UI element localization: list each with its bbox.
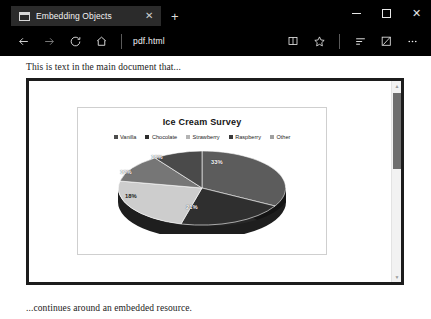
legend-label: Other — [276, 134, 290, 140]
scrollbar-thumb[interactable] — [393, 93, 401, 169]
slice-label-vanilla: 33% — [211, 159, 223, 165]
forward-button[interactable] — [36, 28, 62, 54]
document-text-after: ...continues around an embedded resource… — [26, 303, 192, 313]
arrow-left-icon — [17, 35, 30, 48]
tab-bar: Embedding Objects ✕ + ✕ — [0, 0, 431, 26]
pie-chart: 33% 21% 18% 12% 16% — [78, 142, 326, 238]
legend-label: Raspberry — [235, 134, 261, 140]
page-content: This is text in the main document that..… — [0, 56, 431, 319]
legend-label: Strawberry — [193, 134, 220, 140]
tab-close-icon[interactable]: ✕ — [143, 11, 155, 21]
embedded-frame-scrollbar[interactable]: ▲ ▼ — [391, 81, 401, 282]
close-icon: ✕ — [412, 8, 421, 19]
favorites-button[interactable] — [306, 28, 332, 54]
new-tab-button[interactable]: + — [165, 10, 185, 26]
minimize-button[interactable] — [341, 0, 371, 26]
slice-label-raspberry: 12% — [120, 169, 132, 175]
refresh-icon — [69, 35, 82, 48]
scroll-down-icon[interactable]: ▼ — [392, 272, 402, 282]
legend-swatch-icon — [145, 135, 149, 139]
window-controls: ✕ — [341, 0, 431, 26]
hub-lines-icon — [354, 35, 367, 48]
home-button[interactable] — [88, 28, 114, 54]
pen-note-icon — [380, 35, 393, 48]
slice-label-strawberry: 18% — [125, 193, 137, 199]
chart-card: Ice Cream Survey Vanilla Chocolate S — [77, 107, 327, 255]
make-note-button[interactable] — [373, 28, 399, 54]
star-icon — [313, 35, 326, 48]
address-text: pdf.html — [133, 36, 165, 46]
legend-item: Raspberry — [229, 134, 261, 140]
window-icon — [19, 12, 30, 21]
reading-view-button[interactable] — [280, 28, 306, 54]
maximize-button[interactable] — [371, 0, 401, 26]
chart-title: Ice Cream Survey — [78, 117, 326, 127]
legend-label: Chocolate — [152, 134, 177, 140]
legend-item: Strawberry — [186, 134, 220, 140]
navigation-toolbar: pdf.html — [0, 26, 431, 56]
toolbar-divider — [121, 34, 122, 49]
toolbar-divider-2 — [339, 34, 340, 49]
legend-label: Vanilla — [120, 134, 136, 140]
back-button[interactable] — [10, 28, 36, 54]
document-text-before: This is text in the main document that..… — [26, 62, 431, 72]
legend-swatch-icon — [186, 135, 190, 139]
more-button[interactable] — [399, 28, 425, 54]
legend-item: Vanilla — [114, 134, 137, 140]
pie-chart-svg — [107, 142, 297, 234]
browser-tab[interactable]: Embedding Objects ✕ — [11, 6, 161, 26]
embedded-object-content: Ice Cream Survey Vanilla Chocolate S — [29, 81, 401, 282]
refresh-button[interactable] — [62, 28, 88, 54]
legend-swatch-icon — [270, 135, 274, 139]
browser-window: Embedding Objects ✕ + ✕ — [0, 0, 431, 319]
ellipsis-icon — [406, 35, 419, 48]
address-bar[interactable]: pdf.html — [129, 30, 280, 52]
legend-item: Chocolate — [145, 134, 177, 140]
hub-button[interactable] — [347, 28, 373, 54]
close-button[interactable]: ✕ — [401, 0, 431, 26]
chart-legend: Vanilla Chocolate Strawberry Raspbe — [78, 134, 326, 140]
toolbar-actions — [280, 28, 425, 54]
slice-label-other: 16% — [151, 154, 163, 160]
legend-item: Other — [270, 134, 291, 140]
slice-label-chocolate: 21% — [186, 204, 198, 210]
arrow-right-icon — [43, 35, 56, 48]
legend-swatch-icon — [114, 135, 118, 139]
scroll-up-icon[interactable]: ▲ — [392, 81, 402, 91]
book-icon — [287, 35, 299, 47]
legend-swatch-icon — [229, 135, 233, 139]
home-icon — [95, 35, 108, 48]
embedded-object-frame: Ice Cream Survey Vanilla Chocolate S — [26, 78, 404, 285]
tab-title: Embedding Objects — [36, 11, 137, 21]
